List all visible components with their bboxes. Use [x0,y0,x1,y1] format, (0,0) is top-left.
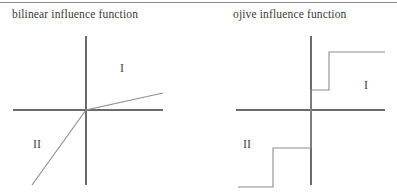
bilinear-influence-curve [32,93,163,185]
bilinear-plot-svg [0,0,200,195]
ojive-region-label-I: I [364,79,368,91]
panel-ojive: ojive influence function I II [200,0,397,195]
ojive-plot-svg [200,0,397,195]
ojive-region-label-II: II [243,138,251,150]
panel-bilinear: bilinear influence function I II [0,0,200,195]
figure-canvas: bilinear influence function I II ojive i… [0,0,397,195]
bilinear-region-label-I: I [120,62,124,74]
bilinear-region-label-II: II [33,138,41,150]
